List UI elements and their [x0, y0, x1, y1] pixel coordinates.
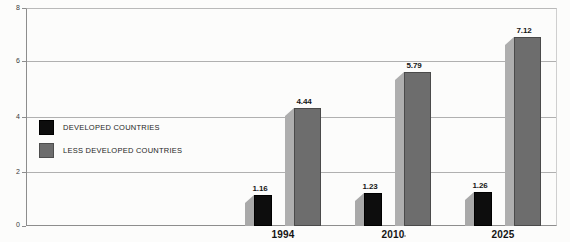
ytick-mark-2 — [22, 172, 26, 173]
value-label-1994-developed: 1.16 — [243, 184, 277, 193]
legend-swatch-lessdeveloped-icon — [39, 143, 54, 158]
bar-front-face — [474, 192, 492, 226]
bar-side-face — [245, 195, 254, 226]
legend-item-lessdeveloped[interactable]: LESS DEVELOPED COUNTRIES — [39, 142, 182, 158]
bar-front-face — [254, 195, 272, 226]
value-label-2025-developed: 1.26 — [463, 181, 497, 190]
bar-2025-developed[interactable] — [465, 184, 492, 226]
ytick-label-2: 2 — [2, 168, 20, 175]
bar-1994-lessdeveloped[interactable] — [285, 100, 321, 226]
bar-2025-lessdeveloped[interactable] — [505, 29, 541, 226]
scan-artifact-speck — [404, 235, 406, 237]
bar-side-face — [395, 72, 404, 226]
value-label-1994-lessdeveloped: 4.44 — [287, 97, 321, 106]
ytick-mark-0 — [22, 226, 26, 227]
bar-front-face — [364, 193, 382, 226]
legend-item-developed[interactable]: DEVELOPED COUNTRIES — [39, 119, 182, 135]
value-label-2010-developed: 1.23 — [353, 182, 387, 191]
bar-side-face — [465, 192, 474, 226]
ytick-label-6: 6 — [2, 57, 20, 64]
bar-side-face — [505, 37, 514, 226]
legend: DEVELOPED COUNTRIES LESS DEVELOPED COUNT… — [39, 119, 182, 165]
legend-label-developed: DEVELOPED COUNTRIES — [63, 123, 160, 132]
bar-2010-developed[interactable] — [355, 185, 382, 226]
bar-2010-lessdeveloped[interactable] — [395, 64, 431, 226]
category-label-1994: 1994 — [253, 229, 313, 240]
bar-front-face — [404, 72, 431, 226]
bar-front-face — [514, 37, 541, 226]
bar-front-face — [294, 108, 321, 226]
ytick-label-0: 0 — [2, 221, 20, 228]
category-label-2025: 2025 — [473, 229, 533, 240]
bar-chart: 8 6 4 2 0 1.16 4.44 1994 1.23 5.79 2010 … — [0, 0, 570, 242]
legend-label-lessdeveloped: LESS DEVELOPED COUNTRIES — [63, 146, 182, 155]
ytick-mark-8 — [22, 8, 26, 9]
ytick-label-8: 8 — [2, 4, 20, 11]
value-label-2010-lessdeveloped: 5.79 — [397, 61, 431, 70]
value-label-2025-lessdeveloped: 7.12 — [507, 26, 541, 35]
category-label-2010: 2010 — [363, 229, 423, 240]
ytick-mark-6 — [22, 61, 26, 62]
legend-swatch-developed-icon — [39, 120, 54, 135]
ytick-mark-4 — [22, 117, 26, 118]
ytick-label-4: 4 — [2, 113, 20, 120]
bar-side-face — [355, 193, 364, 226]
bar-side-face — [285, 108, 294, 226]
